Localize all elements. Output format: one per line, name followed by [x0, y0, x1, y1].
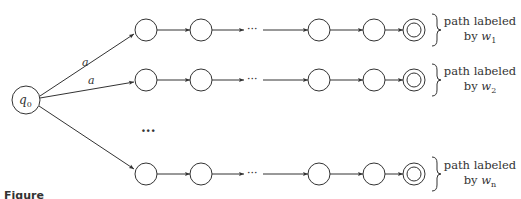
edge-label-a-row2: a: [88, 74, 95, 87]
horizontal-ellipsis: ···: [247, 73, 258, 86]
edge-q0-row2: [40, 82, 134, 98]
path-label-rown: path labeled by wn: [440, 158, 520, 192]
edge-q0-row3: [39, 106, 134, 169]
vertical-ellipsis: ···: [141, 123, 156, 139]
path-label-row1: path labeled by w1: [440, 14, 520, 48]
path-row-1: ···: [135, 14, 441, 46]
path-row-n: ···: [135, 157, 441, 191]
path-label-row2: path labeled by w2: [440, 64, 520, 98]
figure-caption: Figure: [4, 189, 44, 199]
edge-label-a-row1: a: [82, 56, 89, 69]
horizontal-ellipsis: ···: [247, 23, 258, 36]
path-row-2: ···: [135, 64, 441, 96]
start-state-q0: q0: [12, 86, 40, 114]
horizontal-ellipsis: ···: [247, 167, 258, 180]
